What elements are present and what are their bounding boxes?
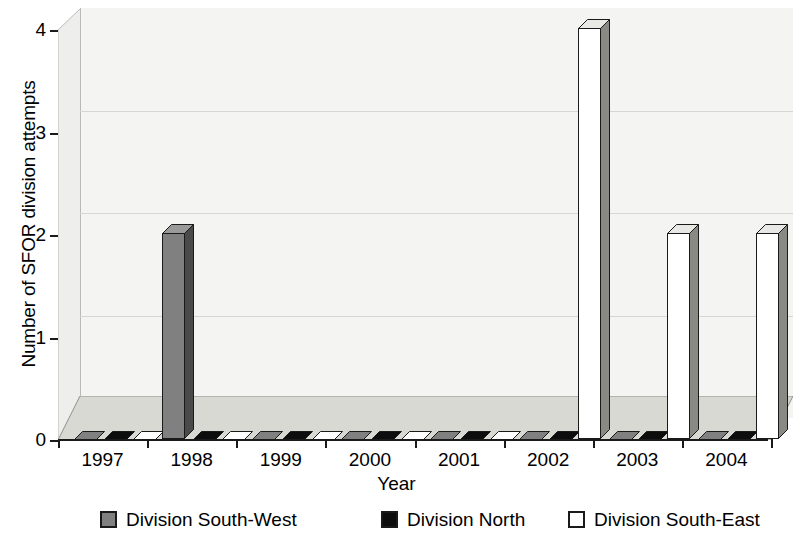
x-tick-mark bbox=[415, 439, 417, 448]
x-tick-label: 2001 bbox=[414, 450, 504, 469]
x-tick-mark bbox=[325, 439, 327, 448]
y-axis-tick-labels: 01234 bbox=[22, 0, 46, 460]
y-tick-mark bbox=[50, 338, 58, 340]
y-tick-label: 0 bbox=[24, 430, 46, 449]
x-tick-label: 1997 bbox=[58, 450, 148, 469]
legend-label: Division North bbox=[407, 510, 525, 529]
x-tick-mark bbox=[504, 439, 506, 448]
y-tick-mark bbox=[50, 133, 58, 135]
x-tick-mark bbox=[593, 439, 595, 448]
y-tick-mark bbox=[50, 235, 58, 237]
gridline bbox=[80, 111, 793, 112]
legend-label: Division South-East bbox=[594, 510, 760, 529]
plot-area bbox=[58, 8, 793, 440]
bar-shape bbox=[162, 224, 194, 440]
y-tick-label: 1 bbox=[24, 328, 46, 347]
x-axis-tick-marks bbox=[58, 439, 770, 449]
x-tick-mark bbox=[682, 439, 684, 448]
x-tick-label: 2003 bbox=[592, 450, 682, 469]
y-tick-mark bbox=[50, 30, 58, 32]
y-tick-label: 2 bbox=[24, 225, 46, 244]
x-tick-label: 2000 bbox=[325, 450, 415, 469]
x-axis-title: Year bbox=[0, 473, 793, 495]
chart-legend: Division South-WestDivision NorthDivisio… bbox=[0, 506, 793, 536]
x-tick-label: 1999 bbox=[236, 450, 326, 469]
x-tick-mark bbox=[236, 439, 238, 448]
legend-item: Division North bbox=[381, 506, 525, 532]
y-tick-label: 3 bbox=[24, 123, 46, 142]
x-tick-mark bbox=[771, 439, 773, 448]
x-tick-mark bbox=[58, 439, 60, 448]
bar-division-south-east-2002 bbox=[578, 19, 609, 440]
bar-division-south-east-2004 bbox=[756, 224, 787, 440]
legend-swatch-icon bbox=[100, 511, 117, 528]
y-tick-mark bbox=[50, 440, 58, 442]
bar-chart-figure: Number of SFOR division attempts 01234 1… bbox=[0, 0, 793, 542]
legend-item: Division South-East bbox=[568, 506, 760, 532]
bar-division-south-west-1998 bbox=[162, 224, 193, 440]
x-tick-label: 2004 bbox=[681, 450, 771, 469]
x-tick-mark bbox=[147, 439, 149, 448]
bar-shape bbox=[578, 19, 610, 440]
legend-swatch-icon bbox=[381, 511, 398, 528]
bar-shape bbox=[667, 224, 699, 440]
legend-item: Division South-West bbox=[100, 506, 297, 532]
bar-shape bbox=[756, 224, 788, 440]
plot-left-wall bbox=[58, 8, 81, 440]
y-tick-label: 4 bbox=[24, 20, 46, 39]
x-axis-tick-labels: 19971998199920002001200220032004 bbox=[58, 450, 770, 474]
legend-label: Division South-West bbox=[126, 510, 297, 529]
bar-division-south-east-2003 bbox=[667, 224, 698, 440]
x-tick-label: 1998 bbox=[147, 450, 237, 469]
gridline bbox=[80, 213, 793, 214]
legend-swatch-icon bbox=[568, 511, 585, 528]
x-tick-label: 2002 bbox=[503, 450, 593, 469]
